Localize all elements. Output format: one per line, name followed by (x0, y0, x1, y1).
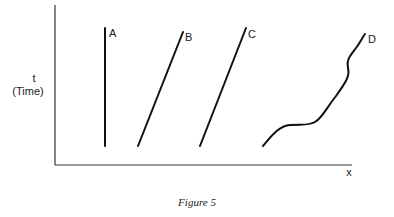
figure-caption: Figure 5 (177, 196, 216, 208)
x-axis-label: x (346, 166, 352, 178)
line-b (138, 32, 183, 146)
figure-diagram: t (Time) x A B C D Figure 5 (0, 0, 394, 217)
line-c-label: C (248, 28, 256, 40)
line-c (200, 28, 246, 146)
line-b-label: B (185, 31, 192, 43)
line-a-label: A (109, 27, 117, 39)
line-d-label: D (368, 33, 376, 45)
line-d (263, 34, 365, 146)
y-axis-label-time: (Time) (12, 85, 43, 97)
y-axis-label-t: t (32, 72, 35, 84)
